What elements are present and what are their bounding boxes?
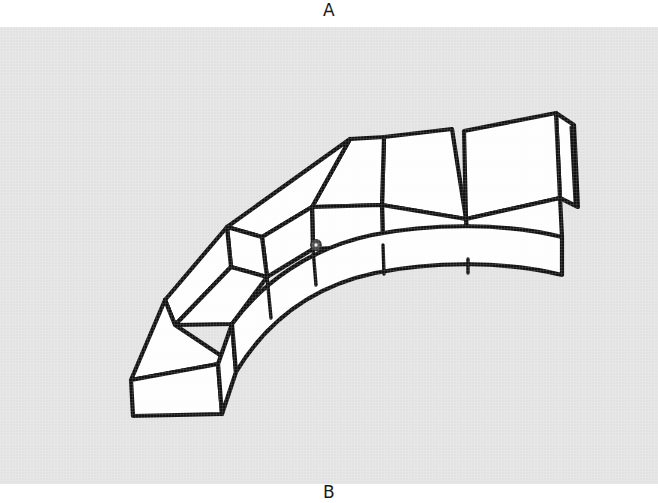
voussoir-4 — [312, 137, 384, 249]
panel-label-top: A — [0, 2, 658, 19]
extrados-seam-crown — [382, 137, 384, 205]
arch-assembly — [131, 113, 578, 416]
drawing-canvas — [0, 27, 658, 484]
division-line-c — [383, 245, 384, 274]
dark-spot-mark — [311, 240, 321, 250]
arch-drawing-svg — [0, 27, 658, 484]
panel-label-bottom: B — [0, 484, 658, 501]
figure-root: A — [0, 0, 658, 503]
